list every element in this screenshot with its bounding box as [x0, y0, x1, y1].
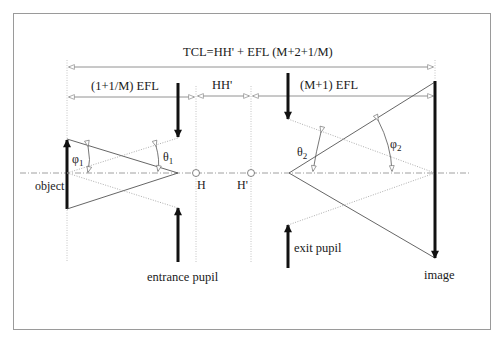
phi1-angle-arc — [88, 146, 90, 172]
entrance-pupil-label: entrance pupil — [147, 270, 219, 284]
theta1-label: θ1 — [163, 150, 173, 166]
object-label: object — [35, 179, 65, 193]
h-point — [193, 170, 200, 177]
image-side-label: (M+1) EFL — [300, 78, 358, 92]
object-side-label: (1+1/M) EFL — [91, 79, 159, 93]
phi1-label: φ1 — [72, 152, 83, 168]
exit-pupil-label: exit pupil — [294, 241, 342, 255]
image-label: image — [424, 268, 455, 282]
h-prime-point — [248, 170, 255, 177]
theta2-label: θ2 — [297, 145, 307, 161]
optical-diagram: TCL=HH' + EFL (M+2+1/M) (1+1/M) EFL HH' … — [0, 0, 501, 344]
theta2-angle-arc — [313, 132, 321, 171]
h-label: H — [197, 178, 206, 192]
image-side-rays — [288, 82, 435, 258]
tcl-label: TCL=HH' + EFL (M+2+1/M) — [183, 45, 333, 59]
theta1-angle-arc — [156, 146, 159, 171]
phi2-label: φ2 — [390, 137, 401, 153]
hh-label: HH' — [212, 78, 232, 92]
object-side-rays — [67, 138, 178, 209]
h-prime-label: H' — [237, 178, 248, 192]
